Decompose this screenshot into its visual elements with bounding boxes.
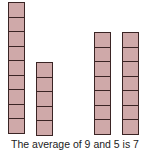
unit-block bbox=[9, 3, 24, 18]
unit-block bbox=[9, 90, 24, 105]
unit-block bbox=[123, 77, 138, 92]
unit-block bbox=[37, 107, 52, 122]
unit-block bbox=[123, 91, 138, 106]
block-column-2 bbox=[36, 62, 53, 136]
unit-block bbox=[37, 92, 52, 107]
unit-block bbox=[9, 32, 24, 47]
unit-block bbox=[9, 105, 24, 120]
unit-block bbox=[95, 48, 110, 63]
unit-block bbox=[9, 119, 24, 134]
caption: The average of 9 and 5 is 7 bbox=[0, 138, 150, 150]
unit-block bbox=[9, 76, 24, 91]
unit-block bbox=[123, 33, 138, 48]
block-column-1 bbox=[8, 2, 25, 134]
unit-block bbox=[9, 18, 24, 33]
unit-block bbox=[123, 62, 138, 77]
unit-block bbox=[95, 62, 110, 77]
unit-block bbox=[95, 120, 110, 135]
unit-block bbox=[95, 91, 110, 106]
unit-block bbox=[123, 120, 138, 135]
unit-block bbox=[9, 61, 24, 76]
unit-block bbox=[37, 78, 52, 93]
unit-block bbox=[95, 106, 110, 121]
unit-block bbox=[37, 63, 52, 78]
unit-block bbox=[123, 48, 138, 63]
block-column-4 bbox=[122, 32, 139, 135]
unit-block bbox=[9, 47, 24, 62]
unit-block bbox=[37, 121, 52, 136]
block-column-3 bbox=[94, 32, 111, 135]
unit-block bbox=[95, 77, 110, 92]
unit-block bbox=[123, 106, 138, 121]
unit-block bbox=[95, 33, 110, 48]
